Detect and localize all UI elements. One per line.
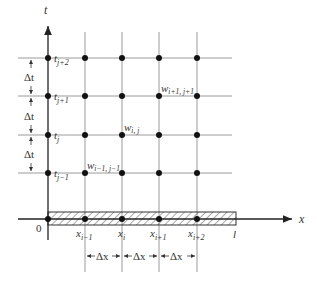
svg-text:tj−1: tj−1: [54, 167, 69, 182]
svg-text:Δt: Δt: [24, 110, 34, 122]
rod-end-label: l: [233, 228, 236, 240]
svg-text:xi−1: xi−1: [75, 227, 93, 242]
svg-text:xi+2: xi+2: [187, 227, 205, 242]
origin-label: 0: [36, 222, 42, 234]
svg-text:wi−1, j−1: wi−1, j−1: [87, 159, 120, 173]
finite-difference-grid-diagram: t x 0 l tj+2 tj+1 tj tj−1 xi−1 xi xi+1 x…: [0, 0, 317, 286]
t-axis-label: t: [44, 3, 48, 17]
svg-text:tj+1: tj+1: [54, 90, 69, 105]
svg-text:wi+1, j+1: wi+1, j+1: [161, 82, 194, 96]
grid-horizontal-lines: [18, 58, 232, 173]
svg-text:xi: xi: [117, 227, 125, 242]
svg-text:xi+1: xi+1: [149, 227, 167, 242]
svg-text:Δx: Δx: [96, 250, 109, 262]
svg-text:Δt: Δt: [24, 71, 34, 83]
delta-x-labels: Δx Δx Δx: [96, 250, 183, 262]
space-node-labels: xi−1 xi xi+1 xi+2: [75, 227, 205, 242]
time-level-labels: tj+2 tj+1 tj tj−1: [54, 52, 69, 182]
svg-text:Δx: Δx: [133, 250, 146, 262]
x-axis-label: x: [298, 212, 305, 226]
svg-text:wi, j: wi, j: [124, 121, 139, 135]
grid-vertical-lines: [85, 32, 197, 272]
delta-t-labels: Δt Δt Δt: [24, 71, 34, 160]
svg-text:tj+2: tj+2: [54, 52, 69, 67]
svg-text:Δt: Δt: [24, 148, 34, 160]
svg-text:Δx: Δx: [170, 250, 183, 262]
svg-text:tj: tj: [54, 129, 60, 144]
